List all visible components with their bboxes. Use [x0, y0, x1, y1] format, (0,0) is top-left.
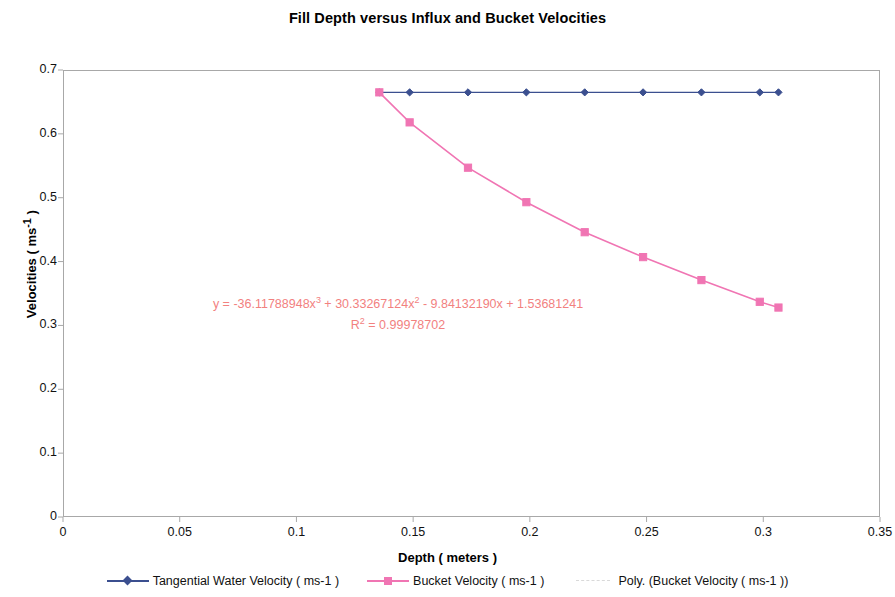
series-marker-diamond	[464, 89, 471, 96]
equation-mid-2: - 9.84132190x + 1.53681241	[419, 297, 583, 311]
legend-item-label: Poly. (Bucket Velocity ( ms-1 ))	[618, 574, 788, 588]
legend-item-2[interactable]: Bucket Velocity ( ms-1 )	[367, 574, 544, 588]
series-marker-square	[464, 164, 471, 171]
series-marker-square	[406, 119, 413, 126]
legend-item-1[interactable]: Tangential Water Velocity ( ms-1 )	[107, 574, 339, 588]
series-marker-diamond	[639, 89, 646, 96]
series-marker-diamond	[775, 89, 782, 96]
series-marker-square	[376, 89, 383, 96]
trendline-rsquared-line: R2 = 0.99978702	[118, 313, 678, 334]
chart-legend: Tangential Water Velocity ( ms-1 )Bucket…	[0, 574, 895, 588]
series-line	[379, 92, 778, 307]
chart-container: Fill Depth versus Influx and Bucket Velo…	[0, 0, 895, 597]
series-marker-square	[581, 229, 588, 236]
legend-item-label: Tangential Water Velocity ( ms-1 )	[153, 574, 339, 588]
series-marker-diamond	[756, 89, 763, 96]
trendline-equation-annotation: y = -36.11788948x3 + 30.33267124x2 - 9.8…	[118, 292, 678, 334]
series-2	[376, 89, 782, 311]
legend-marker-diamond-icon	[107, 575, 149, 587]
legend-diamond-marker	[122, 576, 132, 586]
legend-item-label: Bucket Velocity ( ms-1 )	[413, 574, 544, 588]
rsquared-value: = 0.99978702	[365, 318, 445, 332]
legend-marker-square-icon	[367, 575, 409, 587]
series-marker-square	[639, 254, 646, 261]
legend-marker-dashed-icon	[572, 575, 614, 587]
series-1	[376, 89, 782, 96]
series-marker-diamond	[406, 89, 413, 96]
series-marker-square	[756, 298, 763, 305]
series-marker-diamond	[698, 89, 705, 96]
equation-prefix: y = -36.11788948x	[213, 297, 316, 311]
trendline-equation-line: y = -36.11788948x3 + 30.33267124x2 - 9.8…	[118, 292, 678, 313]
series-marker-square	[698, 276, 705, 283]
legend-item-3[interactable]: Poly. (Bucket Velocity ( ms-1 ))	[572, 574, 788, 588]
legend-square-marker	[384, 577, 392, 585]
series-marker-square	[523, 199, 530, 206]
series-marker-square	[775, 304, 782, 311]
legend-dashed-line	[576, 580, 610, 582]
series-marker-diamond	[581, 89, 588, 96]
equation-mid-1: + 30.33267124x	[321, 297, 415, 311]
series-marker-diamond	[523, 89, 530, 96]
rsquared-prefix: R	[351, 318, 360, 332]
